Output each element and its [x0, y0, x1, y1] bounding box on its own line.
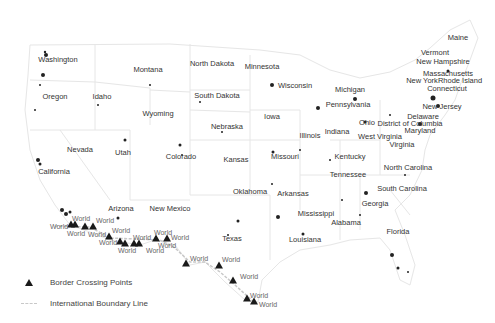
state-label: Wisconsin	[278, 82, 312, 90]
border-crossing-triangle-icon	[229, 277, 237, 284]
state-label: Virginia	[390, 141, 415, 149]
state-label: Kentucky	[335, 153, 366, 161]
us-map: WashingtonOregonIdahoMontanaWyomingNorth…	[0, 0, 495, 323]
state-label: Washington	[38, 56, 77, 64]
world-label: World	[112, 227, 130, 234]
state-label: Oklahoma	[233, 188, 267, 196]
state-label: Arizona	[108, 205, 133, 213]
state-label: Louisiana	[289, 236, 321, 244]
state-label: Pennsylvania	[326, 101, 371, 109]
border-crossing-triangle-icon	[81, 223, 89, 230]
border-crossing-triangle-icon	[182, 260, 190, 267]
state-label: Oregon	[42, 93, 67, 101]
state-label: California	[38, 168, 70, 176]
legend-label: Border Crossing Points	[50, 278, 132, 287]
world-label: World	[72, 215, 90, 222]
state-label: Utah	[115, 149, 131, 157]
state-label: Illinois	[300, 132, 321, 140]
world-label: World	[259, 301, 277, 308]
state-label: Nevada	[67, 146, 93, 154]
state-label: Texas	[222, 235, 242, 243]
state-label: Connecticut	[427, 85, 467, 93]
world-label: World	[154, 229, 172, 236]
triangle-icon	[25, 279, 33, 286]
state-label: South Dakota	[194, 92, 239, 100]
state-label: Vermont	[421, 49, 449, 57]
dashed-line-icon	[21, 303, 37, 304]
state-label: Maine	[448, 34, 468, 42]
state-label: Iowa	[264, 113, 280, 121]
state-label: Alabama	[331, 219, 361, 227]
state-label: New Jersey	[422, 103, 461, 111]
state-label: South Carolina	[377, 185, 427, 193]
state-label: Mississippi	[298, 210, 334, 218]
world-label: World	[118, 247, 136, 254]
state-label: Wyoming	[142, 110, 173, 118]
world-label: World	[96, 217, 114, 224]
world-label: World	[240, 273, 258, 280]
state-label: Montana	[133, 66, 162, 74]
state-label: Kansas	[223, 156, 248, 164]
world-label: World	[250, 292, 268, 299]
state-label: Indiana	[325, 128, 350, 136]
state-label: Tennessee	[330, 171, 366, 179]
state-label: Maryland	[405, 127, 436, 135]
state-label: Colorado	[166, 153, 196, 161]
border-crossing-triangle-icon	[121, 240, 129, 247]
state-label: Idaho	[93, 93, 112, 101]
state-label: Michigan	[335, 86, 365, 94]
state-label: New Hampshire	[416, 58, 469, 66]
world-label: World	[88, 231, 106, 238]
state-label: New Mexico	[150, 205, 191, 213]
legend-item-boundary-line: International Boundary Line	[18, 297, 148, 309]
world-label: World	[67, 230, 85, 237]
legend: Border Crossing Points International Bou…	[18, 276, 148, 318]
state-label: Florida	[387, 228, 410, 236]
state-label: North Dakota	[190, 60, 234, 68]
state-label: Georgia	[362, 200, 389, 208]
world-label: World	[158, 242, 176, 249]
world-label: World	[50, 223, 68, 230]
legend-label: International Boundary Line	[50, 299, 148, 308]
state-label: Nebraska	[211, 123, 243, 131]
world-label: World	[222, 256, 240, 263]
state-label: Missouri	[271, 153, 299, 161]
legend-item-border-crossing: Border Crossing Points	[18, 276, 148, 288]
world-label: World	[171, 234, 189, 241]
state-label: Ohio	[359, 119, 375, 127]
state-label: Minnesota	[245, 63, 280, 71]
world-label: World	[99, 239, 117, 246]
world-label: World	[133, 234, 151, 241]
state-label: Arkansas	[277, 190, 308, 198]
state-label: North Carolina	[384, 164, 432, 172]
world-label: World	[190, 255, 208, 262]
